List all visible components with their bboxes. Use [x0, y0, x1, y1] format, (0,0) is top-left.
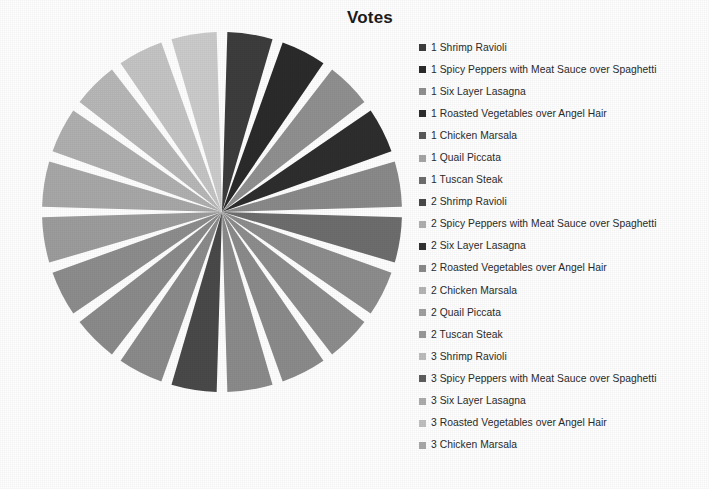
chart-title: Votes [300, 8, 440, 28]
legend-swatch-icon [419, 442, 426, 449]
legend-swatch-icon [419, 353, 426, 360]
legend-item-label: 3 Shrimp Ravioli [431, 351, 507, 362]
legend-item-label: 2 Quail Piccata [431, 307, 501, 318]
chart-container: Votes 1 Shrimp Ravioli1 Spicy Peppers wi… [0, 0, 709, 489]
legend-swatch-icon [419, 199, 426, 206]
legend-swatch-icon [419, 331, 426, 338]
legend-item[interactable]: 3 Six Layer Lasagna [419, 390, 709, 412]
legend-item[interactable]: 2 Roasted Vegetables over Angel Hair [419, 257, 709, 279]
legend-item[interactable]: 3 Spicy Peppers with Meat Sauce over Spa… [419, 367, 709, 389]
chart-legend: 1 Shrimp Ravioli1 Spicy Peppers with Mea… [419, 36, 709, 456]
legend-item-label: 2 Roasted Vegetables over Angel Hair [431, 262, 607, 273]
legend-item[interactable]: 3 Chicken Marsala [419, 434, 709, 456]
legend-item-label: 1 Roasted Vegetables over Angel Hair [431, 108, 607, 119]
legend-item-label: 3 Spicy Peppers with Meat Sauce over Spa… [431, 373, 657, 384]
legend-swatch-icon [419, 265, 426, 272]
legend-item-label: 2 Tuscan Steak [431, 329, 503, 340]
legend-swatch-icon [419, 420, 426, 427]
legend-item[interactable]: 1 Tuscan Steak [419, 169, 709, 191]
pie-slice-group [42, 32, 402, 392]
legend-item[interactable]: 2 Chicken Marsala [419, 279, 709, 301]
legend-item[interactable]: 2 Tuscan Steak [419, 323, 709, 345]
legend-item[interactable]: 3 Roasted Vegetables over Angel Hair [419, 412, 709, 434]
legend-swatch-icon [419, 287, 426, 294]
legend-item[interactable]: 1 Quail Piccata [419, 146, 709, 168]
legend-item-label: 1 Chicken Marsala [431, 130, 517, 141]
legend-item-label: 2 Chicken Marsala [431, 285, 517, 296]
legend-swatch-icon [419, 398, 426, 405]
legend-item-label: 2 Spicy Peppers with Meat Sauce over Spa… [431, 218, 657, 229]
legend-swatch-icon [419, 66, 426, 73]
legend-swatch-icon [419, 309, 426, 316]
legend-item-label: 1 Quail Piccata [431, 152, 501, 163]
legend-swatch-icon [419, 221, 426, 228]
legend-swatch-icon [419, 44, 426, 51]
legend-item[interactable]: 2 Six Layer Lasagna [419, 235, 709, 257]
legend-item-label: 1 Tuscan Steak [431, 174, 503, 185]
legend-item[interactable]: 2 Shrimp Ravioli [419, 191, 709, 213]
legend-swatch-icon [419, 132, 426, 139]
legend-swatch-icon [419, 243, 426, 250]
pie-chart-plot-area [37, 27, 407, 399]
legend-swatch-icon [419, 177, 426, 184]
legend-swatch-icon [419, 155, 426, 162]
pie-chart-svg [37, 27, 407, 399]
legend-item[interactable]: 1 Chicken Marsala [419, 124, 709, 146]
legend-item[interactable]: 1 Roasted Vegetables over Angel Hair [419, 102, 709, 124]
legend-item[interactable]: 2 Quail Piccata [419, 301, 709, 323]
legend-item[interactable]: 2 Spicy Peppers with Meat Sauce over Spa… [419, 213, 709, 235]
legend-item-label: 3 Roasted Vegetables over Angel Hair [431, 417, 607, 428]
legend-item[interactable]: 1 Shrimp Ravioli [419, 36, 709, 58]
legend-swatch-icon [419, 375, 426, 382]
legend-item-label: 2 Shrimp Ravioli [431, 196, 507, 207]
legend-swatch-icon [419, 110, 426, 117]
legend-item-label: 2 Six Layer Lasagna [431, 240, 526, 251]
legend-item[interactable]: 1 Spicy Peppers with Meat Sauce over Spa… [419, 58, 709, 80]
legend-item[interactable]: 1 Six Layer Lasagna [419, 80, 709, 102]
legend-item-label: 3 Chicken Marsala [431, 439, 517, 450]
legend-item-label: 3 Six Layer Lasagna [431, 395, 526, 406]
legend-item-label: 1 Spicy Peppers with Meat Sauce over Spa… [431, 64, 657, 75]
legend-item-label: 1 Six Layer Lasagna [431, 86, 526, 97]
legend-item[interactable]: 3 Shrimp Ravioli [419, 345, 709, 367]
legend-item-label: 1 Shrimp Ravioli [431, 42, 507, 53]
legend-swatch-icon [419, 88, 426, 95]
